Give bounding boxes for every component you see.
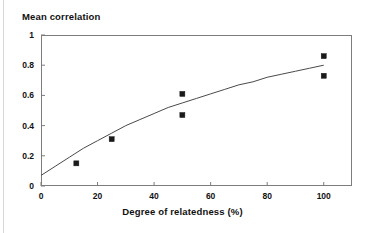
y-tick-label: 0.8 xyxy=(0,60,34,70)
x-tick-label: 40 xyxy=(134,191,174,201)
x-tick-label: 100 xyxy=(304,191,344,201)
y-tick-label: 0 xyxy=(0,181,34,191)
y-tick-label: 1 xyxy=(0,30,34,40)
y-tick-label: 0.6 xyxy=(0,90,34,100)
x-tick-label: 80 xyxy=(247,191,287,201)
x-axis-title: Degree of relatedness (%) xyxy=(0,206,365,217)
x-tick-label: 20 xyxy=(78,191,118,201)
x-tick-label: 60 xyxy=(191,191,231,201)
tick-marks xyxy=(41,35,324,186)
y-tick-label: 0.4 xyxy=(0,121,34,131)
y-tick-label: 0.2 xyxy=(0,151,34,161)
x-tick-label: 0 xyxy=(21,191,61,201)
fitted-curve xyxy=(41,65,324,175)
chart-figure: Mean correlation 00.20.40.60.81 02040608… xyxy=(0,0,365,233)
data-points xyxy=(74,54,326,166)
